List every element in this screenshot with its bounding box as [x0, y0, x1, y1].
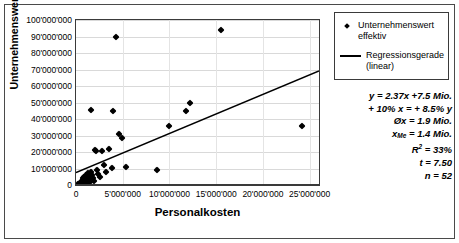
x-axis-tick-label: 20'000'000 — [242, 189, 283, 199]
line-marker-icon — [340, 55, 361, 57]
stat-sample-size: n = 52 — [330, 170, 452, 183]
y-axis-tick-label: 40'000'000 — [31, 114, 72, 124]
x-axis-tick-label: 25'000'000 — [289, 189, 330, 199]
stat-median: xMe = 1.4 Mio. — [330, 128, 452, 142]
x-axis-tick-label: 10'000'000 — [149, 189, 190, 199]
legend-label-regression: Regressionsgerade (linear) — [366, 50, 445, 72]
regression-line-path — [76, 71, 319, 173]
diamond-marker-icon — [344, 23, 350, 29]
y-axis-tick-label: 70'000'000 — [31, 65, 72, 75]
stat-equation: y = 2.37x +7.5 Mio. — [330, 90, 452, 103]
y-axis-tick-label: 90'000'000 — [31, 32, 72, 42]
stat-elasticity: + 10% x = + 8.5% y — [330, 103, 452, 116]
legend-item-regression: Regressionsgerade (linear) — [340, 50, 445, 72]
legend-label-series: Unternehmenswert effektiv — [358, 20, 445, 42]
y-axis-tick-label: 100'000'000 — [26, 15, 72, 25]
chart-legend: Unternehmenswert effektiv Regressionsger… — [334, 12, 449, 80]
y-axis-tick-label: 80'000'000 — [31, 48, 72, 58]
chart-container: Unternehmenswert 010'000'00020'000'00030… — [0, 0, 459, 243]
y-axis-tick-label: 10'000'000 — [31, 164, 72, 174]
x-axis-tick-label: 5'000'000 — [105, 189, 141, 199]
stat-mean: Øx = 1.9 Mio. — [330, 115, 452, 128]
y-axis-tick-label: 50'000'000 — [31, 98, 72, 108]
x-axis-title: Personalkosten — [75, 206, 320, 218]
y-axis-tick-label: 60'000'000 — [31, 81, 72, 91]
y-axis-tick-label: 20'000'000 — [31, 147, 72, 157]
legend-item-series: Unternehmenswert effektiv — [340, 20, 445, 42]
x-axis-tick-labels: 05'000'00010'000'00015'000'00020'000'000… — [75, 189, 320, 203]
stat-r-squared: R2 = 33% — [330, 141, 452, 157]
y-axis-tick-label: 30'000'000 — [31, 131, 72, 141]
x-axis-line — [76, 184, 319, 185]
x-axis-tick-label: 15'000'000 — [196, 189, 237, 199]
x-axis-tick-label: 0 — [74, 189, 79, 199]
statistics-annotations: y = 2.37x +7.5 Mio.+ 10% x = + 8.5% yØx … — [330, 90, 452, 182]
y-axis-tick-labels: 010'000'00020'000'00030'000'00040'000'00… — [12, 13, 72, 192]
plot-area — [75, 19, 320, 186]
regression-line — [76, 20, 319, 185]
stat-t-value: t = 7.50 — [330, 157, 452, 170]
y-axis-tick-label: 0 — [67, 180, 72, 190]
